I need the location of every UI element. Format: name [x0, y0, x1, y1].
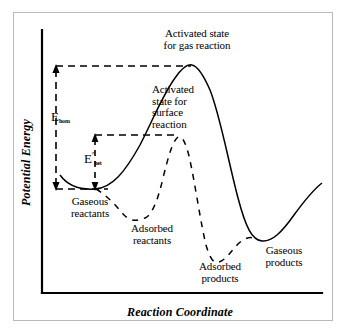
e-het-label: E′het	[84, 150, 102, 167]
e-hom-base: E	[51, 109, 59, 124]
energy-profile-figure: Potential Energy Reaction Coordinate Eho…	[0, 0, 347, 336]
gaseous-reactants-label: Gaseous reactants	[50, 196, 130, 219]
activated-state-surface-label: Activated state for surface reaction	[152, 84, 224, 130]
adsorbed-reactants-label: Adsorbed reactants	[110, 223, 194, 246]
y-axis-title: Potential Energy	[19, 103, 34, 223]
gaseous-products-label: Gaseous products	[246, 245, 322, 268]
e-hom-label: Ehom	[51, 109, 70, 125]
e-het-subscript: het	[94, 160, 101, 166]
e-het-base: E	[84, 151, 92, 166]
activated-state-gas-label: Activated state for gas reaction	[122, 28, 272, 51]
e-hom-subscript: hom	[59, 118, 70, 124]
x-axis-title: Reaction Coordinate	[100, 305, 260, 320]
